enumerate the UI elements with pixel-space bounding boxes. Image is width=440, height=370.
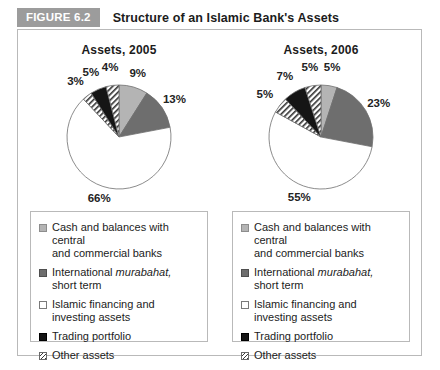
legend-label-murabahat: International murabahat, short term — [52, 266, 171, 292]
legend-item: International murabahat, short term — [241, 266, 401, 292]
legend-label-other: Other assets — [52, 349, 114, 362]
legend-label-line2: short term — [254, 279, 304, 291]
legend-item: Other assets — [241, 349, 401, 362]
legend-item: Islamic financing and investing assets — [39, 298, 199, 324]
legend-swatch-cash-icon — [241, 224, 249, 232]
legend-swatch-islamic-financing-icon — [241, 301, 249, 309]
legend-label-line2: investing assets — [254, 311, 332, 323]
chart-title-2006: Assets, 2006 — [220, 43, 422, 57]
legend-label-line1: Cash and balances with central — [254, 221, 371, 246]
pie-slice-label: 5% — [324, 61, 341, 73]
legend-swatch-trading-icon — [39, 333, 47, 341]
legend-item: Other assets — [39, 349, 199, 362]
legend-label-trading: Trading portfolio — [52, 330, 131, 343]
pie-slice-label: 7% — [277, 70, 294, 82]
figure-title: Structure of an Islamic Bank's Assets — [113, 11, 339, 25]
figure-frame: Assets, 2005 9%13%66%3%5%4% Cash and bal… — [17, 29, 422, 356]
pie-slice-label: 13% — [163, 93, 186, 105]
legend-swatch-other-icon — [39, 352, 47, 360]
legend-label-line2: short term — [52, 279, 102, 291]
legend-label-islamic-financing: Islamic financing and investing assets — [52, 298, 155, 324]
pie-svg-2005: 9%13%66%3%5%4% — [18, 61, 220, 206]
legend-item: Cash and balances with central and comme… — [241, 221, 401, 260]
legend-item: Islamic financing and investing assets — [241, 298, 401, 324]
legend-swatch-murabahat-icon — [241, 269, 249, 277]
legend-item: Trading portfolio — [39, 330, 199, 343]
legend-label-trading: Trading portfolio — [254, 330, 333, 343]
pie-slice-label: 66% — [88, 192, 111, 204]
legend-swatch-murabahat-icon — [39, 269, 47, 277]
legend-label-line2: and commercial banks — [52, 247, 162, 259]
chart-title-2005: Assets, 2005 — [18, 43, 220, 57]
legend-label-cash: Cash and balances with central and comme… — [52, 221, 199, 260]
legend-swatch-cash-icon — [39, 224, 47, 232]
pie-chart-2005: 9%13%66%3%5%4% — [18, 61, 220, 206]
legend-swatch-islamic-financing-icon — [39, 301, 47, 309]
pie-slice-label: 5% — [82, 66, 99, 78]
pie-slice-label: 23% — [367, 97, 390, 109]
pie-slice-label: 5% — [302, 61, 319, 73]
pie-svg-2006: 5%23%55%5%7%5% — [220, 61, 422, 206]
chart-panel-2006: Assets, 2006 5%23%55%5%7%5% Cash and bal… — [220, 30, 422, 355]
pie-slice-label: 55% — [288, 191, 311, 203]
legend-label-line1: Islamic financing and — [52, 298, 155, 310]
figure-header: FIGURE 6.2 Structure of an Islamic Bank'… — [17, 8, 339, 27]
legend-2005: Cash and balances with central and comme… — [30, 211, 208, 342]
legend-item: Trading portfolio — [241, 330, 401, 343]
legend-label-other: Other assets — [254, 349, 316, 362]
legend-label-italic: murabahat, — [116, 266, 172, 278]
legend-swatch-trading-icon — [241, 333, 249, 341]
legend-swatch-other-icon — [241, 352, 249, 360]
legend-label-cash: Cash and balances with central and comme… — [254, 221, 401, 260]
legend-label-line1: Cash and balances with central — [52, 221, 169, 246]
legend-item: Cash and balances with central and comme… — [39, 221, 199, 260]
legend-label-islamic-financing: Islamic financing and investing assets — [254, 298, 357, 324]
pie-slice-label: 4% — [102, 61, 119, 73]
legend-label-line2: investing assets — [52, 311, 130, 323]
legend-label-murabahat: International murabahat, short term — [254, 266, 373, 292]
legend-item: International murabahat, short term — [39, 266, 199, 292]
chart-panel-2005: Assets, 2005 9%13%66%3%5%4% Cash and bal… — [18, 30, 220, 355]
pie-slice-label: 5% — [257, 88, 274, 100]
legend-label-line1: Islamic financing and — [254, 298, 357, 310]
pie-slice-label: 9% — [129, 67, 146, 79]
pie-slice-label: 3% — [67, 75, 84, 87]
pie-chart-2006: 5%23%55%5%7%5% — [220, 61, 422, 206]
figure-number-badge: FIGURE 6.2 — [17, 8, 100, 27]
legend-label-italic: murabahat, — [318, 266, 374, 278]
legend-2006: Cash and balances with central and comme… — [232, 211, 410, 342]
legend-label-line2: and commercial banks — [254, 247, 364, 259]
